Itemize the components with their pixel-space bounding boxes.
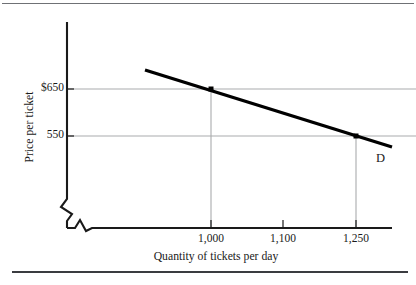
x-tick-label-1000: 1,000 — [181, 233, 241, 245]
chart-figure: $650 550 1,000 1,100 1,250 Price per tic… — [0, 0, 416, 285]
y-axis-line — [61, 22, 72, 228]
data-point-1250-550 — [354, 134, 359, 139]
x-axis-title: Quantity of tickets per day — [96, 250, 336, 263]
y-axis-title-text: Price per ticket — [23, 91, 35, 162]
data-point-1000-650 — [209, 87, 214, 92]
demand-curve-label: D — [376, 151, 385, 166]
y-axis-title: Price per ticket — [19, 77, 37, 177]
x-axis-line — [67, 220, 392, 231]
x-tick-label-1100: 1,100 — [253, 233, 313, 245]
x-tick-label-1250: 1,250 — [326, 233, 386, 245]
